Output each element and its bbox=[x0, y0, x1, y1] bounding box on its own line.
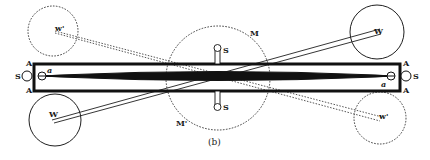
vertical-pin-bottom-head bbox=[214, 104, 221, 111]
label-S-top: S bbox=[223, 45, 229, 55]
label-A-left-top: A bbox=[25, 58, 33, 68]
label-W-bottom-left: W bbox=[48, 109, 59, 119]
label-a-left: a bbox=[47, 65, 52, 75]
vertical-pin-top-head bbox=[214, 45, 221, 52]
label-w-prime-bottom-right: w' bbox=[378, 111, 388, 121]
figure-caption: (b) bbox=[208, 137, 221, 147]
label-M-top: M bbox=[250, 28, 259, 38]
vertical-pin-bottom bbox=[214, 91, 221, 111]
label-A-right-top: A bbox=[402, 58, 410, 68]
vertical-pin-bottom-stem bbox=[215, 91, 220, 105]
label-S-right: S bbox=[413, 71, 419, 81]
side-S-left-circle bbox=[22, 71, 32, 81]
wheel-W-bottom-left bbox=[29, 94, 81, 146]
wheel-w-prime-top-left bbox=[28, 6, 78, 56]
label-S-bottom: S bbox=[223, 102, 229, 112]
vertical-pin-top bbox=[214, 45, 221, 65]
label-S-left: S bbox=[15, 71, 21, 81]
label-A-right-bottom: A bbox=[402, 85, 410, 95]
label-w-prime-top-left: w' bbox=[54, 23, 64, 33]
mechanism-diagram: w' W W w' M M' S S S S A A A A a a (b) bbox=[0, 0, 430, 160]
label-W-top-right: W bbox=[373, 26, 384, 36]
label-a-right: a bbox=[381, 79, 386, 89]
label-A-left-bottom: A bbox=[25, 85, 33, 95]
side-S-right-circle bbox=[401, 71, 411, 81]
label-M-bottom: M' bbox=[176, 118, 187, 128]
vertical-pin-top-stem bbox=[215, 50, 220, 64]
